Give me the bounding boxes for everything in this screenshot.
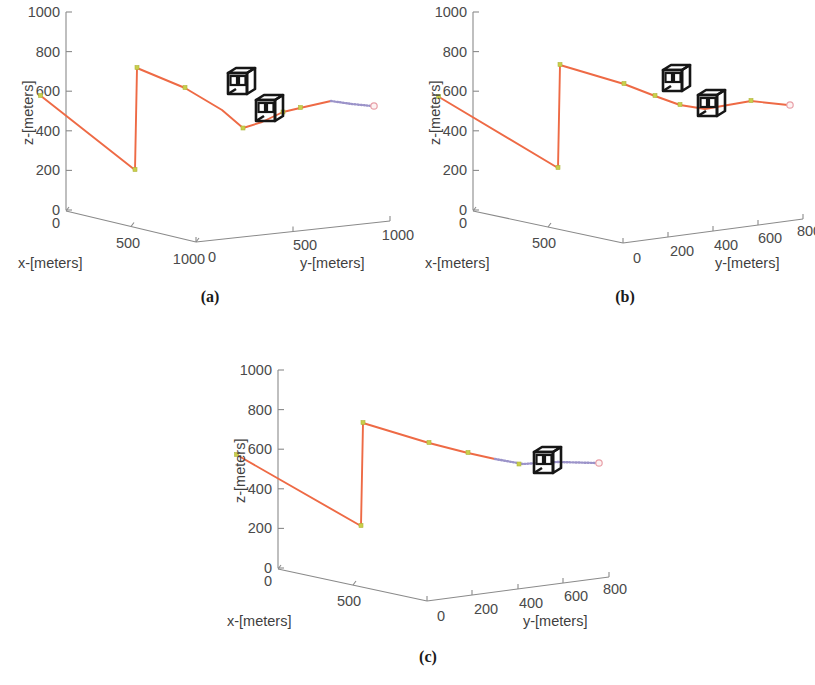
x-tick-label: 500 bbox=[532, 235, 556, 251]
y-tick-label: 800 bbox=[797, 223, 815, 239]
vertex-marker bbox=[558, 63, 562, 67]
z-tick-label: 800 bbox=[36, 44, 60, 60]
drone-cube-icon bbox=[698, 90, 725, 116]
x-tick-a bbox=[131, 223, 134, 227]
x-tick-label: 0 bbox=[52, 215, 60, 231]
endpoint-marker bbox=[596, 460, 602, 466]
vertex-marker bbox=[427, 441, 431, 445]
vertex-marker bbox=[133, 168, 137, 172]
y-tick-label: 600 bbox=[564, 588, 588, 604]
trajectory-line-a bbox=[41, 68, 331, 170]
z-tick-label: 200 bbox=[36, 162, 60, 178]
x-axis-title-a: x-[meters] bbox=[18, 255, 82, 271]
y-tick-label: 200 bbox=[474, 601, 498, 617]
vertex-marker bbox=[466, 451, 470, 455]
trajectory-line-b bbox=[439, 65, 788, 168]
z-tick-label: 200 bbox=[248, 520, 272, 536]
vertex-marker bbox=[622, 82, 626, 86]
x-tick-label: 500 bbox=[337, 593, 361, 609]
y-tick-label: 0 bbox=[208, 249, 216, 265]
z-tick-label: 200 bbox=[443, 162, 467, 178]
y-axis-title-a: y-[meters] bbox=[300, 255, 364, 271]
vertex-marker bbox=[556, 166, 560, 170]
x-tick-b bbox=[548, 223, 551, 227]
y-tick-label: 0 bbox=[437, 608, 445, 624]
z-axis-title-a: z-[meters] bbox=[20, 81, 36, 145]
endpoint-marker bbox=[371, 103, 377, 109]
drone-cube-icon bbox=[534, 447, 561, 473]
z-tick-label: 400 bbox=[248, 481, 272, 497]
vertex-marker bbox=[135, 66, 139, 70]
panel-a: 1000 800 600 400 200 0 0 500 1000 0 500 … bbox=[0, 0, 410, 320]
x-tick-label: 0 bbox=[264, 573, 272, 589]
vertex-marker bbox=[361, 421, 365, 425]
vertex-marker bbox=[241, 126, 245, 130]
y-tick-label: 500 bbox=[293, 237, 317, 253]
x-tick-c bbox=[353, 581, 356, 585]
x-axis-title-c: x-[meters] bbox=[227, 613, 291, 629]
z-tick-label: 1000 bbox=[28, 4, 60, 20]
y-tick-label: 200 bbox=[670, 243, 694, 259]
z-tick-label: 800 bbox=[443, 44, 467, 60]
x-tick-label: 0 bbox=[459, 215, 467, 231]
x-axis-title-b: x-[meters] bbox=[425, 255, 489, 271]
y-axis-title-b: y-[meters] bbox=[715, 255, 779, 271]
panel-caption-a: (a) bbox=[180, 288, 240, 306]
vertex-marker bbox=[517, 462, 521, 466]
z-axis-title-c: z-[meters] bbox=[232, 439, 248, 503]
y-tick-label: 400 bbox=[714, 237, 738, 253]
z-tick-label: 1000 bbox=[435, 4, 467, 20]
trajectory-dotted-a bbox=[331, 101, 372, 106]
z-tick-label: 400 bbox=[443, 123, 467, 139]
z-tick-label: 400 bbox=[36, 123, 60, 139]
y-axis-title-c: y-[meters] bbox=[523, 613, 587, 629]
drone-cube-icon bbox=[663, 65, 690, 91]
z-tick-label: 600 bbox=[443, 83, 467, 99]
vertex-marker bbox=[39, 94, 43, 98]
vertex-marker bbox=[299, 106, 303, 110]
z-tick-label: 1000 bbox=[240, 362, 272, 378]
y-tick-label: 400 bbox=[519, 595, 543, 611]
y-tick-label: 600 bbox=[758, 230, 782, 246]
vertex-marker bbox=[678, 103, 682, 107]
vertex-marker bbox=[653, 94, 657, 98]
z-tick-label: 600 bbox=[248, 441, 272, 457]
z-tick-label: 800 bbox=[248, 402, 272, 418]
vertex-marker bbox=[359, 524, 363, 528]
vertex-marker bbox=[749, 99, 753, 103]
x-tick-label: 1000 bbox=[173, 251, 205, 267]
panel-b: 1000 800 600 400 200 0 0 500 0 200 400 6… bbox=[410, 0, 815, 320]
y-tick-label: 800 bbox=[603, 581, 627, 597]
panel-c: 1000 800 600 400 200 0 0 500 0 200 400 6… bbox=[205, 358, 625, 685]
y-tick-label: 0 bbox=[633, 250, 641, 266]
panel-caption-b: (b) bbox=[595, 288, 655, 306]
z-axis-title-b: z-[meters] bbox=[427, 81, 443, 145]
vertex-marker bbox=[183, 86, 187, 90]
drone-cube-icon bbox=[256, 95, 283, 121]
panel-caption-c: (c) bbox=[398, 648, 458, 666]
drone-cube-icon bbox=[228, 68, 255, 94]
endpoint-marker bbox=[787, 102, 793, 108]
trajectory-line-c bbox=[237, 423, 495, 526]
x-tick-label: 500 bbox=[116, 235, 140, 251]
